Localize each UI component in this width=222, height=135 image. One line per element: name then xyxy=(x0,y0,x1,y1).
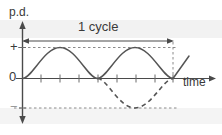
y-tick-label-positive: + xyxy=(10,40,18,53)
waveform-arch-second xyxy=(98,48,174,79)
arrow-right-icon xyxy=(209,76,216,82)
x-axis-label: time xyxy=(183,76,206,88)
waveform-dashed-inverted-half xyxy=(98,79,174,109)
waveform-arch-first xyxy=(23,48,98,79)
y-axis-label: p.d. xyxy=(9,6,29,18)
y-tick-label-zero: 0 xyxy=(9,70,16,83)
arrow-up-icon xyxy=(19,21,25,29)
cycle-annotation-label: 1 cycle xyxy=(78,20,118,33)
y-tick-label-negative: − xyxy=(10,100,18,113)
rectified-waveform-figure: p.d. + 0 − time 1 cycle xyxy=(0,0,222,135)
arrow-down-icon xyxy=(19,116,25,124)
y-axis xyxy=(19,21,25,124)
cycle-span-arrow xyxy=(22,38,174,44)
